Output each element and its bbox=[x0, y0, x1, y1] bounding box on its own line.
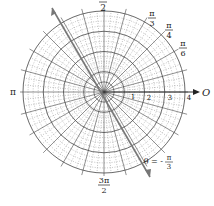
label-pi: π bbox=[10, 87, 16, 97]
polar-grid-diagram: 2 π 3 π 4 π 6 π 3π 2 O 1 2 3 4 θ = - π 3 bbox=[0, 0, 214, 206]
label-pi-6-num: π bbox=[180, 39, 185, 48]
label-pi-4-den: 4 bbox=[166, 31, 171, 40]
label-pi-6-den: 6 bbox=[180, 49, 185, 58]
polar-axis-arrow bbox=[104, 89, 200, 95]
label-pi-4-num: π bbox=[166, 21, 171, 30]
label-radius-1: 1 bbox=[131, 93, 135, 101]
label-ray-frac-num: π bbox=[167, 154, 172, 162]
label-radius-4: 4 bbox=[187, 94, 192, 102]
label-pi-3-num: π bbox=[149, 9, 154, 18]
label-ray-equation: θ = - bbox=[144, 157, 164, 166]
label-3pi-2-num: 3π bbox=[99, 176, 109, 185]
label-half-pi-den: 2 bbox=[100, 3, 106, 13]
label-pi-3-den: 3 bbox=[149, 19, 154, 28]
label-radius-2: 2 bbox=[147, 94, 151, 102]
label-origin-axis: O bbox=[202, 87, 210, 98]
label-radius-3: 3 bbox=[168, 94, 172, 102]
label-3pi-2-den: 2 bbox=[101, 186, 106, 195]
label-ray-frac-den: 3 bbox=[167, 163, 171, 171]
